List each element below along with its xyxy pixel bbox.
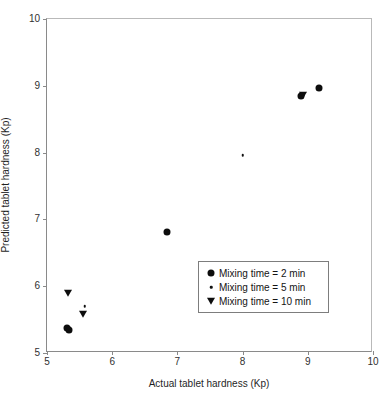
x-axis-tick-mark (47, 351, 48, 355)
y-axis-tick-mark (43, 153, 47, 154)
y-axis-tick-label: 10 (29, 14, 40, 24)
x-axis-tick-label: 5 (44, 357, 50, 367)
y-axis-title: Predicted tablet hardness (Kp) (0, 18, 16, 352)
x-axis-tick-label: 9 (305, 357, 311, 367)
x-axis-tick-label: 6 (109, 357, 115, 367)
y-axis-tick-label: 9 (34, 81, 40, 91)
x-axis-tick-label: 10 (367, 357, 378, 367)
x-axis-tick-mark (373, 351, 374, 355)
x-axis-tick-mark (177, 351, 178, 355)
data-point-marker (163, 229, 170, 236)
legend-item: Mixing time = 2 min (203, 266, 323, 280)
x-axis-tick-label: 7 (175, 357, 181, 367)
chart-legend: Mixing time = 2 minMixing time = 5 minMi… (198, 261, 329, 313)
y-axis-tick-label: 6 (34, 281, 40, 291)
y-axis-tick-mark (43, 219, 47, 220)
data-point-marker (84, 305, 87, 308)
x-axis-tick-mark (112, 351, 113, 355)
legend-item-label: Mixing time = 5 min (219, 282, 305, 293)
data-point-marker (64, 290, 72, 297)
legend-marker-icon (203, 266, 219, 280)
y-axis-tick-mark (43, 286, 47, 287)
data-point-marker (299, 92, 307, 99)
legend-filled-down-triangle-icon (207, 298, 215, 305)
x-axis-title: Actual tablet hardness (Kp) (46, 378, 372, 389)
data-point-marker (79, 311, 87, 318)
data-point-marker (315, 84, 322, 91)
legend-filled-circle-icon (208, 270, 215, 277)
y-axis-tick-label: 7 (34, 214, 40, 224)
legend-small-dot-icon (210, 286, 213, 289)
legend-marker-icon (203, 280, 219, 294)
legend-marker-icon (203, 294, 219, 308)
scatter-plot-figure: 5678910 5678910 Actual tablet hardness (… (0, 0, 391, 406)
x-axis-tick-mark (243, 351, 244, 355)
y-axis-tick-label: 5 (34, 348, 40, 358)
legend-item-label: Mixing time = 2 min (219, 268, 305, 279)
legend-item: Mixing time = 5 min (203, 280, 323, 294)
data-point-marker (241, 154, 244, 157)
legend-item-label: Mixing time = 10 min (219, 296, 311, 307)
x-axis-tick-mark (308, 351, 309, 355)
data-point-marker (66, 326, 73, 333)
x-axis-tick-label: 8 (240, 357, 246, 367)
legend-item: Mixing time = 10 min (203, 294, 323, 308)
y-axis-tick-mark (43, 86, 47, 87)
y-axis-tick-label: 8 (34, 148, 40, 158)
y-axis-tick-mark (43, 19, 47, 20)
